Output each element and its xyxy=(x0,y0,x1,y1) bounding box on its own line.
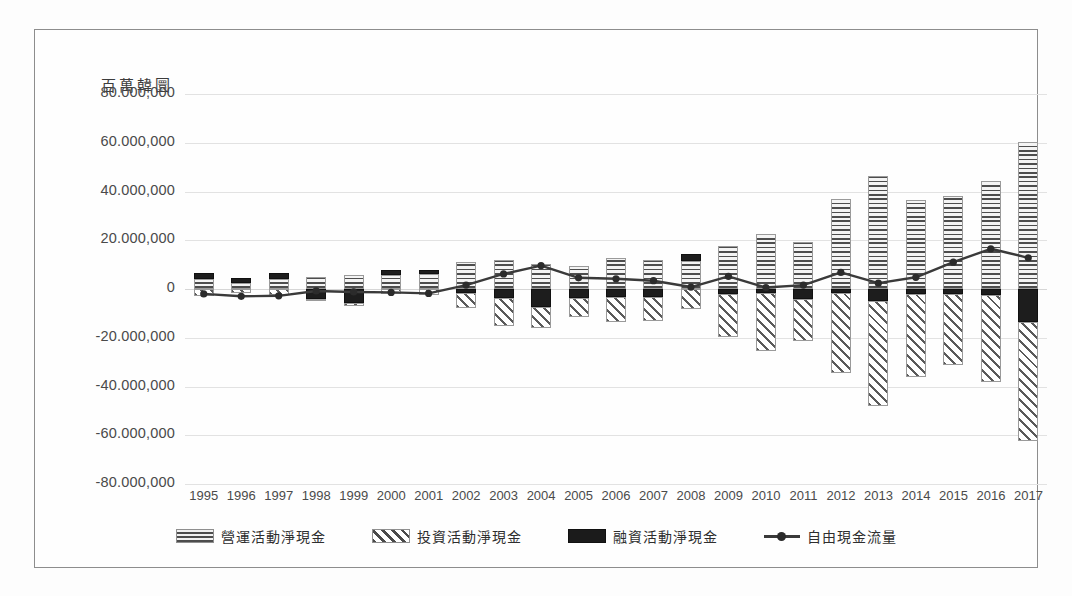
x-axis-tick-label: 2011 xyxy=(785,488,822,510)
legend-item-financing: 融資活動淨現金 xyxy=(568,526,718,546)
x-axis-tick-label: 2012 xyxy=(822,488,859,510)
x-axis-tick-label: 2004 xyxy=(522,488,559,510)
free-cash-flow-marker xyxy=(612,275,619,282)
x-axis-tick-label: 2010 xyxy=(747,488,784,510)
x-axis-tick-label: 2014 xyxy=(897,488,934,510)
y-axis-tick-label: 80.000,000 xyxy=(35,84,175,100)
free-cash-flow-marker xyxy=(313,287,320,294)
x-axis-tick-label: 2017 xyxy=(1010,488,1047,510)
chart-frame: 百萬韓圜 80.000,00060.000,00040.000,00020.00… xyxy=(34,29,1038,568)
x-axis-tick-label: 2006 xyxy=(597,488,634,510)
free-cash-flow-marker xyxy=(200,290,207,297)
y-axis-tick-label: -60.000,000 xyxy=(35,425,175,441)
x-axis-tick-label: 2003 xyxy=(485,488,522,510)
free-cash-flow-marker xyxy=(537,262,544,269)
free-cash-flow-marker xyxy=(462,282,469,289)
x-axis-tick-label: 2013 xyxy=(860,488,897,510)
x-axis-tick-label: 1995 xyxy=(185,488,222,510)
free-cash-flow-marker xyxy=(650,277,657,284)
investing-swatch-icon xyxy=(372,529,410,543)
financing-swatch-icon xyxy=(568,529,606,543)
x-axis-tick-label: 2016 xyxy=(972,488,1009,510)
chart-page: 百萬韓圜 80.000,00060.000,00040.000,00020.00… xyxy=(0,0,1072,596)
y-axis-tick-label: 20.000,000 xyxy=(35,230,175,246)
x-axis-tick-label: 2005 xyxy=(560,488,597,510)
y-axis-tick-label: -40.000,000 xyxy=(35,377,175,393)
free-cash-flow-marker xyxy=(388,289,395,296)
operating-swatch-icon xyxy=(176,529,214,543)
free-cash-flow-line xyxy=(185,94,1047,484)
y-axis-tick-label: 40.000,000 xyxy=(35,182,175,198)
x-axis-tick-label: 1997 xyxy=(260,488,297,510)
x-axis-tick-labels: 1995199619971998199920002001200220032004… xyxy=(185,488,1047,510)
gridline xyxy=(185,484,1047,485)
y-axis-tick-label: -20.000,000 xyxy=(35,328,175,344)
legend-label-financing: 融資活動淨現金 xyxy=(613,526,718,546)
legend-label-operating: 營運活動淨現金 xyxy=(221,526,326,546)
plot-area xyxy=(185,94,1047,484)
free-cash-flow-marker xyxy=(800,282,807,289)
legend-item-operating: 營運活動淨現金 xyxy=(176,526,326,546)
x-axis-tick-label: 2001 xyxy=(410,488,447,510)
free-cash-flow-marker xyxy=(500,270,507,277)
free-cash-flow-marker xyxy=(987,245,994,252)
free-cash-flow-marker xyxy=(837,269,844,276)
free-cash-flow-marker xyxy=(425,290,432,297)
y-axis-tick-label: 60.000,000 xyxy=(35,133,175,149)
chart-legend: 營運活動淨現金 投資活動淨現金 融資活動淨現金 自由現金流量 xyxy=(34,519,1038,553)
free-cash-flow-marker xyxy=(350,288,357,295)
x-axis-tick-label: 1999 xyxy=(335,488,372,510)
free-cash-flow-marker xyxy=(575,274,582,281)
free-cash-flow-marker xyxy=(1025,254,1032,261)
legend-item-free-cash-flow: 自由現金流量 xyxy=(764,526,897,546)
free-cash-flow-swatch-icon xyxy=(764,530,800,542)
free-cash-flow-marker xyxy=(875,280,882,287)
free-cash-flow-marker xyxy=(275,292,282,299)
x-axis-tick-label: 2007 xyxy=(635,488,672,510)
x-axis-tick-label: 2000 xyxy=(372,488,409,510)
free-cash-flow-marker xyxy=(687,283,694,290)
x-axis-tick-label: 2015 xyxy=(935,488,972,510)
legend-label-investing: 投資活動淨現金 xyxy=(417,526,522,546)
x-axis-tick-label: 1996 xyxy=(222,488,259,510)
free-cash-flow-marker xyxy=(912,274,919,281)
free-cash-flow-marker xyxy=(762,284,769,291)
legend-label-free-cash-flow: 自由現金流量 xyxy=(807,526,897,546)
free-cash-flow-marker xyxy=(725,273,732,280)
x-axis-tick-label: 2002 xyxy=(447,488,484,510)
y-axis-tick-label: 0 xyxy=(35,279,175,295)
free-cash-flow-marker xyxy=(238,293,245,300)
y-axis-tick-label: -80.000,000 xyxy=(35,474,175,490)
legend-item-investing: 投資活動淨現金 xyxy=(372,526,522,546)
free-cash-flow-marker xyxy=(950,259,957,266)
x-axis-tick-label: 1998 xyxy=(297,488,334,510)
x-axis-tick-label: 2008 xyxy=(672,488,709,510)
x-axis-tick-label: 2009 xyxy=(710,488,747,510)
